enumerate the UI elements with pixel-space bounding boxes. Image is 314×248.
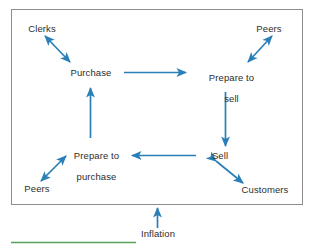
diagram-frame — [12, 10, 303, 205]
node-label-clerks: Clerks — [18, 23, 66, 34]
node-label-prepare-to-purchase-line2: purchase — [77, 171, 117, 182]
node-label-prepare-to-purchase: Prepare to purchase — [58, 140, 124, 193]
node-label-inflation: Inflation — [129, 228, 187, 239]
node-label-prepare-to-sell-line2: sell — [224, 93, 239, 104]
node-label-peers-top: Peers — [245, 23, 293, 34]
node-label-prepare-to-purchase-line1: Prepare to — [74, 150, 119, 161]
diagram-canvas: Clerks Peers Purchase Prepare to sell Pr… — [0, 0, 314, 248]
node-label-prepare-to-sell: Prepare to sell — [194, 62, 258, 115]
diagram-graphics — [0, 0, 314, 248]
node-label-sell: Sell — [203, 150, 237, 161]
node-label-prepare-to-sell-line1: Prepare to — [209, 72, 254, 83]
node-label-purchase: Purchase — [60, 67, 122, 78]
node-label-customers: Customers — [233, 184, 297, 195]
node-label-peers-bottom: Peers — [14, 183, 60, 194]
